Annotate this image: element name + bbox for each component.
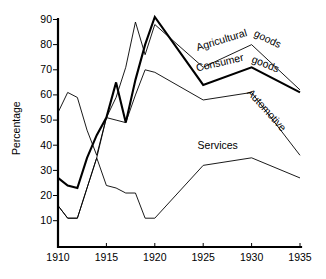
y-tick-label-40: 40 [40,139,52,151]
y-tick-label-70: 70 [40,63,52,75]
series-label-agricultural-0: Agricultural [195,26,249,53]
y-tick-label-30: 30 [40,164,52,176]
y-axis-title: Percentage [10,101,22,155]
series-label-consumer-2: Consumer [195,51,245,74]
y-tick-label-90: 90 [40,13,52,25]
series-label-automotive-4: Automotive [245,86,289,133]
x-tick-label-1930: 1930 [240,251,264,263]
x-tick-label-1920: 1920 [143,251,167,263]
y-axis-group: 90 80 70 60 50 40 30 20 10 [40,13,57,226]
series-line-automotive [58,70,300,218]
series-label-goods-3: goods [250,53,281,75]
y-tick-label-50: 50 [40,113,52,125]
series-label-services-5: Services [198,139,238,151]
series-line-services [58,158,300,218]
x-tick-label-1925: 1925 [192,251,216,263]
chart-canvas: 90 80 70 60 50 40 30 20 10 1910 [0,0,326,279]
y-tick-label-10: 10 [40,214,52,226]
series-label-goods-1: goods [252,27,283,50]
series-annotation-layer: AgriculturalgoodsConsumergoodsAutomotive… [195,26,290,151]
x-tick-label-1935: 1935 [288,251,312,263]
y-tick-label-80: 80 [40,38,52,50]
x-tick-label-1910: 1910 [46,251,70,263]
x-tick-label-1915: 1915 [95,251,119,263]
series-layer [58,17,300,218]
line-chart: 90 80 70 60 50 40 30 20 10 1910 [0,0,326,279]
y-tick-label-20: 20 [40,189,52,201]
y-tick-label-60: 60 [40,88,52,100]
